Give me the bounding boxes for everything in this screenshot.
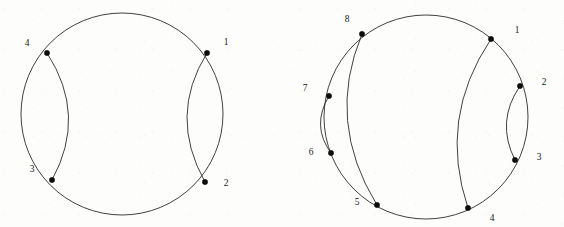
node-label-5: 5 xyxy=(355,197,360,207)
left-diagram: 1234 xyxy=(21,13,229,215)
chord-diagram-figure: 123412345678 xyxy=(0,0,564,227)
node-point-3 xyxy=(49,177,54,182)
boundary-circle xyxy=(324,15,528,219)
node-point-8 xyxy=(359,31,364,36)
diagram-canvas: 123412345678 xyxy=(0,0,564,227)
node-point-4 xyxy=(465,205,470,210)
node-point-4 xyxy=(44,50,49,55)
node-label-8: 8 xyxy=(345,14,350,24)
node-label-3: 3 xyxy=(30,164,35,174)
chord-arc-3-4 xyxy=(47,53,69,180)
node-point-7 xyxy=(326,93,331,98)
node-label-1: 1 xyxy=(515,25,520,35)
node-label-2: 2 xyxy=(224,178,229,188)
chord-arc-8-5 xyxy=(347,34,377,205)
right-diagram: 12345678 xyxy=(303,14,547,223)
chord-arc-1-4 xyxy=(457,39,491,208)
node-label-7: 7 xyxy=(303,83,308,93)
node-label-3: 3 xyxy=(537,152,542,162)
chord-arc-2-3 xyxy=(506,86,520,160)
chord-arc-1-2 xyxy=(187,53,207,182)
node-point-2 xyxy=(202,179,207,184)
node-label-2: 2 xyxy=(542,77,547,87)
node-label-6: 6 xyxy=(309,147,314,157)
node-label-4: 4 xyxy=(490,213,495,223)
node-label-4: 4 xyxy=(25,38,30,48)
boundary-circle xyxy=(21,13,223,215)
node-point-2 xyxy=(517,83,522,88)
node-point-1 xyxy=(204,50,209,55)
node-point-3 xyxy=(512,157,517,162)
node-point-1 xyxy=(488,36,493,41)
chord-arc-7-6 xyxy=(321,96,331,153)
node-point-6 xyxy=(328,150,333,155)
node-label-1: 1 xyxy=(224,37,229,47)
node-point-5 xyxy=(374,202,379,207)
